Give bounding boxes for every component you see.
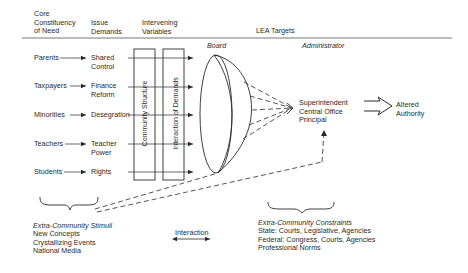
board-bowl: [200, 55, 252, 173]
constituency-taxpayers: Taxpayers: [34, 82, 67, 91]
constituency-minorities: Minorities: [34, 111, 65, 120]
demand-shared-control: Shared Control: [91, 54, 114, 71]
label-community-structure: Community Structure: [141, 78, 148, 150]
header-core-constituency: Core Constituency of Need: [34, 10, 76, 36]
administrator-targets: Superintendent Central Office Principal: [299, 99, 348, 125]
constituency-students: Students: [34, 168, 62, 177]
demand-rights: Rights: [91, 168, 111, 177]
hollow-arrow-icon: [364, 97, 392, 115]
stimuli-items: New Concepts Crystallizing Events Nation…: [33, 230, 96, 256]
header-lea-targets: LEA Targets: [256, 27, 295, 36]
constituency-parents: Parents: [34, 54, 59, 63]
stimuli-brace: [40, 197, 98, 210]
legend-interaction: Interaction: [175, 229, 209, 238]
constraints-brace: [268, 202, 334, 213]
constraints-items: State: Courts, Legislative, Agencies Fed…: [258, 227, 375, 253]
stimuli-to-board: [95, 173, 218, 209]
demand-finance-reform: Finance Reform: [91, 82, 117, 99]
label-administrator: Administrator: [302, 42, 344, 51]
header-intervening-variables: Intervening Variables: [142, 19, 178, 36]
constituency-teachers: Teachers: [34, 140, 63, 149]
label-interaction-of-demands: Interaction of Demands: [172, 74, 179, 154]
outcome-altered-authority: Altered Authority: [396, 101, 424, 118]
demand-teacher-power: Teacher Power: [91, 140, 117, 157]
label-board: Board: [207, 42, 226, 51]
demand-desegration: Desegration: [91, 111, 130, 120]
stimuli-to-administrator: [97, 162, 322, 212]
header-issue-demands: Issue Demands: [91, 19, 122, 36]
